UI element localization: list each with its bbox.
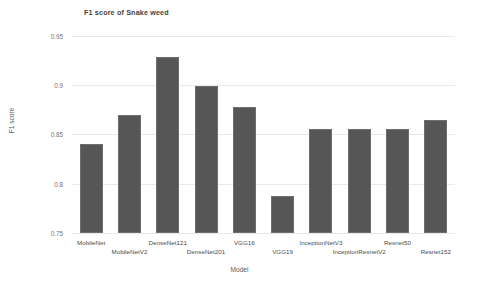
y-axis-tick-label: 0.8 bbox=[54, 180, 63, 187]
y-axis-tick-label: 0.95 bbox=[51, 32, 63, 39]
x-axis-tick-label: VGG19 bbox=[272, 248, 293, 255]
x-axis-tick-label: DenseNet121 bbox=[149, 239, 187, 246]
bar bbox=[80, 144, 103, 233]
bar bbox=[309, 129, 332, 233]
bar bbox=[424, 120, 447, 233]
bar bbox=[195, 86, 218, 233]
x-axis-tick-label: MobileNet bbox=[77, 239, 105, 246]
chart-figure: F1 score of Snake weed F1 score 0.750.80… bbox=[0, 0, 479, 289]
bar bbox=[348, 129, 371, 233]
bar bbox=[156, 57, 179, 233]
gridline bbox=[72, 36, 455, 37]
x-axis-tick-label: VGG16 bbox=[234, 239, 255, 246]
bar bbox=[386, 129, 409, 233]
y-axis-tick-labels: 0.750.80.850.90.95 bbox=[0, 31, 68, 233]
bar bbox=[233, 107, 256, 233]
bar bbox=[271, 196, 294, 233]
x-axis-tick-label: Resnet152 bbox=[421, 248, 451, 255]
x-axis-title: Model bbox=[0, 266, 479, 273]
x-axis-tick-label: InceptionNetV3 bbox=[299, 239, 342, 246]
y-axis-tick-label: 0.9 bbox=[54, 82, 63, 89]
x-axis-tick-label: InceptionResnetV2 bbox=[333, 248, 386, 255]
gridline bbox=[72, 233, 455, 234]
bar bbox=[118, 115, 141, 233]
x-axis-tick-label: DenseNet201 bbox=[187, 248, 225, 255]
gridline bbox=[72, 85, 455, 86]
y-axis-tick-label: 0.75 bbox=[51, 230, 63, 237]
plot-area bbox=[72, 31, 455, 233]
x-axis-tick-label: MobileNetV2 bbox=[111, 248, 147, 255]
x-axis-tick-label: Resnet50 bbox=[384, 239, 411, 246]
chart-title: F1 score of Snake weed bbox=[84, 8, 169, 17]
y-axis-tick-label: 0.85 bbox=[51, 131, 63, 138]
